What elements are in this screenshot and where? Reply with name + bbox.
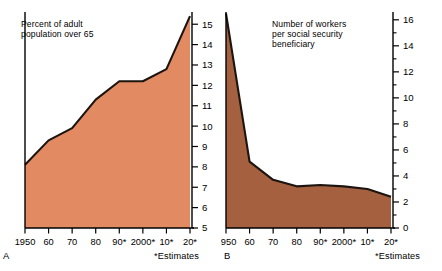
x-tick-label-10*: 10* [360, 237, 374, 247]
x-tick-label-90*: 90* [112, 237, 126, 247]
chart-b-estimates-note: *Estimates [375, 251, 420, 261]
chart-b-panel-letter: B [224, 250, 230, 261]
chart-a-svg: 56789101112131415 195060708090*2000*10*2… [0, 0, 221, 271]
y-tick-label-7: 7 [202, 182, 207, 193]
chart-b-x-ticks [226, 228, 391, 234]
x-tick-label-20*: 20* [183, 237, 197, 247]
chart-panel-a: 56789101112131415 195060708090*2000*10*2… [0, 0, 221, 271]
y-tick-label-9: 9 [202, 141, 207, 152]
y-tick-label-16: 16 [403, 14, 414, 25]
chart-a-panel-letter: A [3, 250, 9, 261]
x-tick-label-2000*: 2000* [332, 237, 357, 247]
x-tick-label-90*: 90* [313, 237, 327, 247]
y-tick-label-10: 10 [202, 121, 213, 132]
chart-a-x-tick-labels: 195060708090*2000*10*20* [15, 237, 198, 247]
y-tick-label-13: 13 [202, 59, 213, 70]
chart-a-area [25, 16, 190, 228]
x-tick-label-2000*: 2000* [131, 237, 156, 247]
x-tick-label-10*: 10* [159, 237, 173, 247]
chart-b-y-ticks: 0246810121416 [393, 14, 414, 233]
y-tick-label-0: 0 [403, 222, 408, 233]
y-tick-label-14: 14 [202, 39, 213, 50]
chart-a-caption: Percent of adult population over 65 [21, 20, 94, 40]
y-tick-label-6: 6 [202, 202, 207, 213]
chart-a-x-ticks [25, 228, 190, 234]
x-tick-label-70: 70 [67, 237, 77, 247]
y-tick-label-15: 15 [202, 19, 213, 30]
x-tick-label-60: 60 [43, 237, 53, 247]
y-tick-label-6: 6 [403, 144, 408, 155]
y-tick-label-2: 2 [403, 196, 408, 207]
x-tick-label-70: 70 [268, 237, 278, 247]
y-tick-label-11: 11 [202, 100, 212, 111]
chart-a-fill [25, 16, 190, 228]
chart-b-x-tick-labels: 195060708090*2000*10*20* [221, 237, 398, 247]
y-tick-label-8: 8 [403, 118, 408, 129]
x-tick-label-20*: 20* [384, 237, 398, 247]
y-tick-label-8: 8 [202, 161, 207, 172]
y-tick-label-10: 10 [403, 92, 414, 103]
x-tick-label-60: 60 [244, 237, 254, 247]
y-tick-label-14: 14 [403, 40, 414, 51]
chart-a-estimates-note: *Estimates [154, 251, 199, 261]
x-tick-label-80: 80 [91, 237, 101, 247]
y-tick-label-12: 12 [202, 80, 213, 91]
x-tick-label-80: 80 [292, 237, 302, 247]
x-tick-label-1950: 1950 [15, 237, 36, 247]
y-tick-label-4: 4 [403, 170, 409, 181]
chart-b-caption: Number of workers per social security be… [272, 20, 346, 49]
x-tick-label-1950: 1950 [221, 237, 236, 247]
chart-panel-b: 0246810121416 195060708090*2000*10*20* N… [221, 0, 442, 271]
chart-a-y-ticks: 56789101112131415 [192, 19, 213, 234]
y-tick-label-5: 5 [202, 222, 207, 233]
y-tick-label-12: 12 [403, 66, 414, 77]
figure-root: 56789101112131415 195060708090*2000*10*2… [0, 0, 442, 271]
